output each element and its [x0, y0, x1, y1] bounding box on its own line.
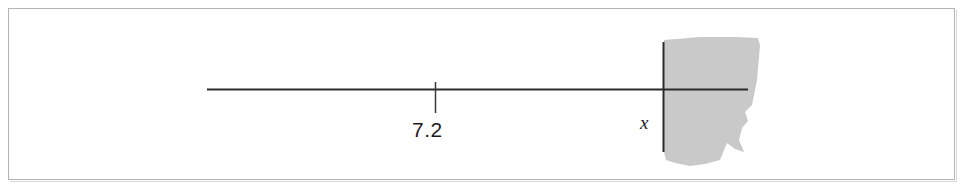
figure-root: 7.2 x: [0, 0, 965, 191]
diagram-canvas: [0, 0, 965, 191]
shaded-tail-region: [664, 37, 760, 166]
boundary-label-x: x: [640, 113, 648, 132]
tick-label-7-2: 7.2: [412, 119, 443, 140]
